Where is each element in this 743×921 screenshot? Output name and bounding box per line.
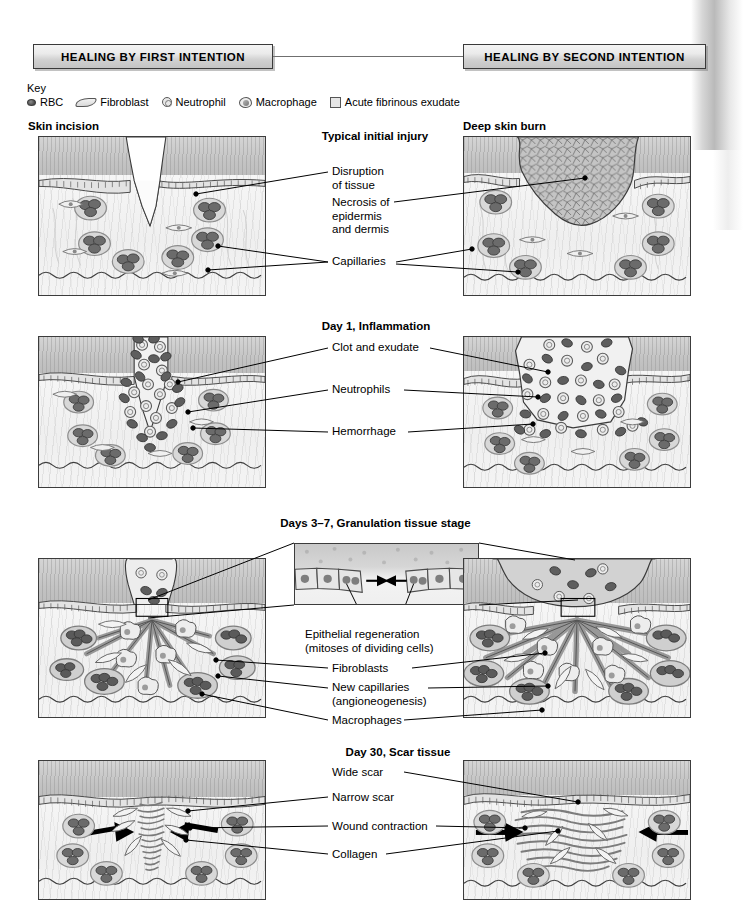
skin-incision-drawing <box>39 137 265 295</box>
migration-arrows <box>366 577 407 585</box>
day1-burn-drawing <box>464 337 690 487</box>
label-fibroblasts: Fibroblasts <box>332 662 388 676</box>
label-disruption-of-tissue: Disruption of tissue <box>332 165 384 192</box>
epithelial-cells-drawing <box>295 544 478 604</box>
panel-day1-incision <box>38 336 266 488</box>
capillary-group <box>472 810 684 887</box>
panel-day1-burn <box>463 336 691 488</box>
capillary-group <box>57 812 257 885</box>
day1-incision-drawing <box>39 337 265 487</box>
label-collagen: Collagen <box>332 848 377 862</box>
neutrophil-icon <box>162 97 172 107</box>
narrow-scar-drawing <box>39 761 265 899</box>
title-healing-second-intention: HEALING BY SECOND INTENTION <box>463 44 706 69</box>
label-macrophages: Macrophages <box>332 714 402 728</box>
panel-skin-incision <box>38 136 266 296</box>
key-label-exudate: Acute fibrinous exudate <box>345 96 460 108</box>
label-wound-contraction: Wound contraction <box>332 820 428 834</box>
wide-scar-drawing <box>464 761 690 899</box>
title-connector-line <box>272 56 472 57</box>
key-item-fibroblast: Fibroblast <box>76 96 148 108</box>
label-new-capillaries: New capillaries (angioneogenesis) <box>332 681 427 708</box>
scan-shadow-artifact <box>691 0 743 150</box>
deep-skin-burn-drawing <box>464 137 690 295</box>
label-clot-and-exudate: Clot and exudate <box>332 341 419 355</box>
stage-heading-initial-injury: Typical initial injury <box>310 130 440 142</box>
key-label-neutrophil: Neutrophil <box>176 96 226 108</box>
stage-heading-day30-scar: Day 30, Scar tissue <box>318 746 478 758</box>
stage-heading-granulation: Days 3–7, Granulation tissue stage <box>243 517 508 529</box>
label-hemorrhage: Hemorrhage <box>332 425 396 439</box>
exudate-icon <box>330 97 341 108</box>
key-item-rbc: RBC <box>27 96 63 108</box>
wound-contraction-arrows <box>87 822 219 842</box>
granulation-burn-drawing <box>464 559 690 717</box>
inset-epithelial-regeneration <box>294 543 479 605</box>
key-item-neutrophil: Neutrophil <box>162 96 226 108</box>
stage-heading-day1-inflammation: Day 1, Inflammation <box>308 320 444 332</box>
title-healing-first-intention: HEALING BY FIRST INTENTION <box>33 44 273 69</box>
collagen-bundles <box>138 802 164 870</box>
scan-shadow-artifact-2 <box>713 150 743 230</box>
caption-deep-skin-burn: Deep skin burn <box>463 120 546 132</box>
panel-deep-skin-burn <box>463 136 691 296</box>
key-label-fibroblast: Fibroblast <box>100 96 148 108</box>
granulation-incision-drawing <box>39 559 265 717</box>
label-capillaries: Capillaries <box>332 255 386 269</box>
panel-wide-scar <box>463 760 691 900</box>
label-necrosis: Necrosis of epidermis and dermis <box>332 196 390 237</box>
key-legend: RBC Fibroblast Neutrophil Macrophage Acu… <box>27 96 473 108</box>
key-item-exudate: Acute fibrinous exudate <box>330 96 460 108</box>
panel-granulation-burn <box>463 558 691 718</box>
label-narrow-scar: Narrow scar <box>332 791 394 805</box>
label-wide-scar: Wide scar <box>332 766 383 780</box>
label-epithelial-regeneration: Epithelial regeneration (mitoses of divi… <box>305 628 433 655</box>
panel-granulation-incision <box>38 558 266 718</box>
rbc-icon <box>27 99 36 106</box>
fibroblast-icon <box>75 98 97 107</box>
panel-narrow-scar <box>38 760 266 900</box>
label-neutrophils: Neutrophils <box>332 383 390 397</box>
key-label-macrophage: Macrophage <box>256 96 317 108</box>
key-item-macrophage: Macrophage <box>239 96 317 108</box>
macrophage-icon <box>239 97 252 108</box>
key-heading: Key <box>27 82 46 94</box>
caption-skin-incision: Skin incision <box>28 120 99 132</box>
key-label-rbc: RBC <box>40 96 63 108</box>
